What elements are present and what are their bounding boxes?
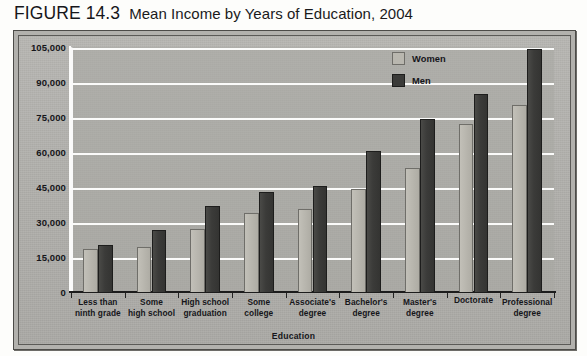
bar-men[interactable] <box>420 119 435 292</box>
bar-women[interactable] <box>512 105 527 292</box>
bar-men[interactable] <box>98 245 113 292</box>
y-axis-ticks: 105,00090,00075,00060,00045,00030,00015,… <box>0 0 66 318</box>
legend-item-men[interactable]: Men <box>392 74 431 87</box>
bar-men[interactable] <box>474 94 489 292</box>
figure-title-row: FIGURE 14.3 Mean Income by Years of Educ… <box>14 3 574 27</box>
bar-men[interactable] <box>205 206 220 292</box>
y-tick-label: 60,000 <box>4 147 66 158</box>
bar-women[interactable] <box>83 249 98 292</box>
y-tick-label: 45,000 <box>4 182 66 193</box>
bar-women[interactable] <box>459 124 474 292</box>
y-tick-label: 90,000 <box>4 77 66 88</box>
bar-men[interactable] <box>152 230 167 292</box>
bar-women[interactable] <box>405 168 420 292</box>
y-tick-label: 0 <box>4 287 66 298</box>
bar-men[interactable] <box>527 49 542 292</box>
legend-label-women: Women <box>412 54 446 64</box>
bar-women[interactable] <box>244 213 259 292</box>
x-axis-labels: Less thanninth gradeSomehigh schoolHigh … <box>71 297 554 331</box>
bar-men[interactable] <box>366 151 381 292</box>
bar-women[interactable] <box>351 189 366 292</box>
legend-label-men: Men <box>412 76 431 86</box>
bar-group <box>298 47 328 292</box>
women-swatch-icon <box>392 52 405 65</box>
bar-group <box>137 47 167 292</box>
bar-group <box>512 47 542 292</box>
bar-group <box>190 47 220 292</box>
bar-group <box>83 47 113 292</box>
bar-women[interactable] <box>190 229 205 292</box>
bar-women[interactable] <box>298 209 313 292</box>
figure-page: FIGURE 14.3 Mean Income by Years of Educ… <box>0 0 587 356</box>
y-tick-label: 30,000 <box>4 217 66 228</box>
chart-legend: Women Men <box>392 52 482 94</box>
x-axis-title: Education <box>0 331 587 341</box>
men-swatch-icon <box>392 74 405 87</box>
legend-item-women[interactable]: Women <box>392 52 446 65</box>
y-tick-label: 105,000 <box>4 42 66 53</box>
bar-women[interactable] <box>137 247 152 293</box>
bar-group <box>351 47 381 292</box>
y-tick-label: 15,000 <box>4 252 66 263</box>
bar-men[interactable] <box>259 192 274 292</box>
page-title: Mean Income by Years of Education, 2004 <box>129 5 413 22</box>
bar-group <box>244 47 274 292</box>
x-category-label: Professionaldegree <box>495 297 559 319</box>
y-tick-label: 75,000 <box>4 112 66 123</box>
bar-men[interactable] <box>313 186 328 292</box>
